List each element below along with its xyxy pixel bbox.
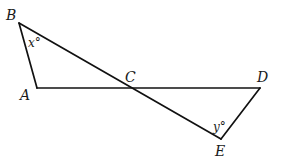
triangle-diagram: B A C D E x° y° [0, 0, 282, 163]
angle-y-label: y° [212, 120, 226, 134]
angle-x-label: x° [28, 36, 41, 50]
segment-de [221, 88, 260, 139]
label-e: E [214, 143, 225, 159]
label-a: A [18, 87, 30, 103]
label-b: B [5, 7, 16, 23]
label-d: D [256, 69, 268, 85]
label-c: C [125, 69, 136, 85]
segment-be [19, 23, 221, 139]
